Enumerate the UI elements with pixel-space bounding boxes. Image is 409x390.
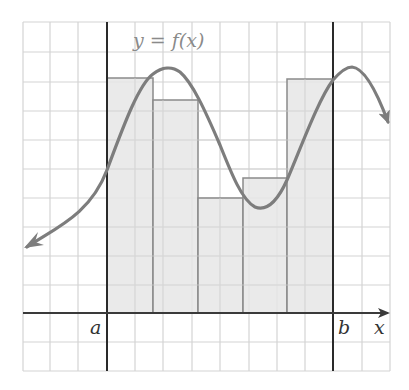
rectangle-4 <box>243 178 287 313</box>
curve-label: y = f(x) <box>132 29 204 51</box>
riemann-sum-figure: y = f(x) a b x <box>0 0 409 390</box>
rectangle-2 <box>153 100 198 313</box>
bound-label-a: a <box>90 316 101 338</box>
bound-label-b: b <box>338 316 350 338</box>
curve-left-arrow-icon <box>24 232 44 248</box>
grid <box>23 22 390 371</box>
rectangle-5 <box>287 79 333 313</box>
axis-label-x: x <box>374 316 385 338</box>
